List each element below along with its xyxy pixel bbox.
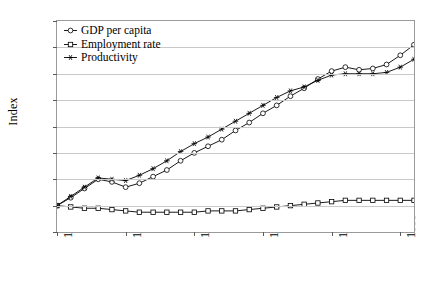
gridline: [57, 74, 414, 75]
y-axis-tick-mark: [53, 47, 57, 48]
plot-area: GDP per capitaEmployment rateProductivit…: [56, 20, 415, 233]
legend-item: Employment rate: [63, 38, 161, 52]
legend-label: GDP per capita: [81, 24, 151, 38]
chart-legend: GDP per capitaEmployment rateProductivit…: [63, 24, 161, 65]
y-axis-tick-mark: [53, 206, 57, 207]
x-axis-tick-mark: [332, 232, 333, 236]
y-axis-label: Index: [6, 77, 21, 147]
x-axis-tick-mark: [263, 232, 264, 236]
legend-label: Employment rate: [81, 38, 161, 52]
legend-label: Productivity: [81, 51, 138, 65]
x-axis-tick-mark: [57, 232, 58, 236]
gridline: [57, 100, 414, 101]
legend-item: GDP per capita: [63, 24, 161, 38]
gridline: [57, 179, 414, 180]
y-axis-tick-mark: [53, 74, 57, 75]
series-gdp-per-capita: [57, 42, 414, 208]
y-axis-tick-mark: [53, 100, 57, 101]
y-axis-tick-mark: [53, 21, 57, 22]
x-axis-tick-mark: [126, 232, 127, 236]
gridline: [57, 153, 414, 154]
y-axis-tick-mark: [53, 127, 57, 128]
legend-marker-open-square-icon: [63, 39, 78, 50]
legend-marker-open-circle-icon: [63, 25, 78, 36]
y-axis-tick-mark: [53, 153, 57, 154]
legend-item: Productivity: [63, 51, 161, 65]
gridline: [57, 206, 414, 207]
x-axis-tick-mark: [400, 232, 401, 236]
y-axis-tick-mark: [53, 179, 57, 180]
legend-marker-asterisk-icon: [63, 52, 78, 63]
chart-container: Index 80100120140160180200220240 1970197…: [0, 0, 428, 283]
gridline: [57, 127, 414, 128]
x-axis-tick-mark: [194, 232, 195, 236]
